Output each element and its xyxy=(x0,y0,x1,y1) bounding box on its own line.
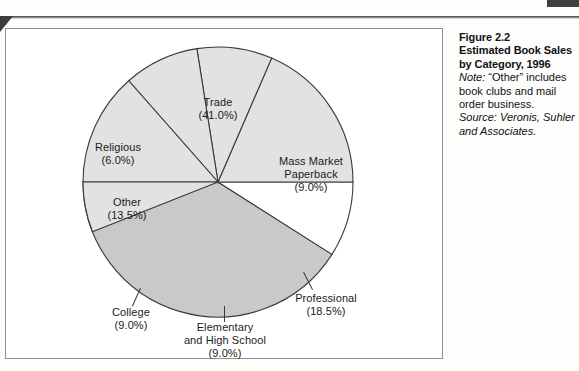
pie-slice-label-mass-market-name-1: Mass Market xyxy=(279,155,343,167)
pie-slice-label-elementary: Elementary and High School (9.0%) xyxy=(166,321,284,360)
pie-slice-label-professional-name: Professional xyxy=(295,292,357,304)
pie-slice-label-elementary-name-2: and High School xyxy=(166,334,284,347)
pie-slice-label-mass-market-paperback: Mass Market Paperback (9.0%) xyxy=(266,155,356,194)
leader-line-elementary xyxy=(224,306,225,322)
figure-caption-note: Note: “Other” includes book clubs and ma… xyxy=(459,71,577,111)
figure-caption-title-line-3: by Category, 1996 xyxy=(459,58,577,71)
figure-caption-note-label: Note: xyxy=(459,71,485,83)
pie-slice-label-trade-name: Trade xyxy=(204,96,233,108)
pie-slice-label-college-name: College xyxy=(112,306,150,318)
pie-slice-label-other-name: Other xyxy=(113,196,141,208)
pie-slice-label-trade: Trade (41.0%) xyxy=(172,96,264,122)
pie-slice-label-religious-name: Religious xyxy=(95,141,141,153)
pie-slice-label-religious-value: (6.0%) xyxy=(78,154,158,167)
pie-slice-label-college-value: (9.0%) xyxy=(93,319,169,332)
pie-slice-label-elementary-name-1: Elementary xyxy=(197,321,254,333)
pie-slice-label-other: Other (13.5%) xyxy=(86,196,168,222)
figure-caption-source: Source: Veronis, Suhler and Associates. xyxy=(459,111,577,138)
pie-slice-label-professional: Professional (18.5%) xyxy=(278,292,374,318)
figure-caption-source-label: Source: xyxy=(459,111,497,123)
pie-slice-label-mass-market-value: (9.0%) xyxy=(266,181,356,194)
pie-slice-label-college: College (9.0%) xyxy=(93,306,169,332)
pie-slice-label-mass-market-name-2: Paperback xyxy=(266,168,356,181)
pie-slice-label-trade-value: (41.0%) xyxy=(172,109,264,122)
page-edge-mark xyxy=(547,0,579,7)
figure-caption: Figure 2.2 Estimated Book Sales by Categ… xyxy=(459,31,577,138)
pie-slice-label-religious: Religious (6.0%) xyxy=(78,141,158,167)
pie-slice-label-professional-value: (18.5%) xyxy=(278,305,374,318)
figure-caption-title-line-1: Figure 2.2 xyxy=(459,31,577,44)
figure-caption-title: Figure 2.2 Estimated Book Sales by Categ… xyxy=(459,31,577,71)
pie-slice-label-elementary-value: (9.0%) xyxy=(166,347,284,360)
page-top-rule-shadow xyxy=(0,18,579,19)
scanned-page: Trade (41.0%) Religious (6.0%) Other (13… xyxy=(0,0,579,371)
figure-caption-title-line-2: Estimated Book Sales xyxy=(459,44,577,57)
pie-slice-label-other-value: (13.5%) xyxy=(86,209,168,222)
